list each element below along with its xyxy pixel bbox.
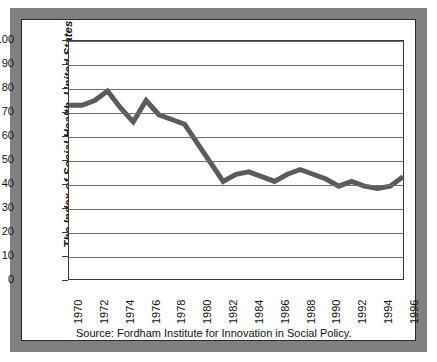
x-tick-label-1974: 1974	[124, 300, 136, 324]
y-tick-label-40: 40	[0, 177, 14, 189]
gridline-40	[69, 185, 403, 186]
gridline-60	[69, 137, 403, 138]
data-line-chart	[69, 41, 403, 279]
y-tick-label-90: 90	[0, 57, 14, 69]
y-tick-label-80: 80	[0, 81, 14, 93]
y-tick-label-10: 10	[0, 249, 14, 261]
y-tick-label-70: 70	[0, 105, 14, 117]
y-tick-label-100: 100	[0, 33, 14, 45]
x-tick-label-1978: 1978	[175, 300, 187, 324]
y-tick-label-0: 0	[0, 273, 14, 285]
source-note: Source: Fordham Institute for Innovation…	[76, 327, 352, 339]
plot-area	[68, 40, 404, 280]
gridline-70	[69, 113, 403, 114]
x-tick-label-1972: 1972	[98, 300, 110, 324]
x-tick-label-1970: 1970	[72, 300, 84, 324]
x-tick-label-1986: 1986	[279, 300, 291, 324]
y-tick-label-30: 30	[0, 201, 14, 213]
y-tick-label-60: 60	[0, 129, 14, 141]
x-tick-label-1984: 1984	[253, 300, 265, 324]
x-tick-label-1976: 1976	[150, 300, 162, 324]
y-tick-label-20: 20	[0, 225, 14, 237]
figure-frame: The Index of Social Health, United State…	[10, 8, 427, 352]
x-tick-label-1982: 1982	[227, 300, 239, 324]
x-tick-label-1988: 1988	[305, 300, 317, 324]
gridline-30	[69, 209, 403, 210]
index-of-social-health-line	[69, 91, 403, 189]
gridline-50	[69, 161, 403, 162]
x-tick-label-1992: 1992	[356, 300, 368, 324]
x-axis-labels: 1970197219741976197819801982198419861988…	[68, 282, 404, 326]
x-tick-label-1980: 1980	[201, 300, 213, 324]
gridline-80	[69, 89, 403, 90]
x-tick-label-1990: 1990	[330, 300, 342, 324]
gridline-90	[69, 65, 403, 66]
x-tick-label-1996: 1996	[408, 300, 420, 324]
y-tick-mark-0	[62, 280, 68, 281]
x-tick-label-1994: 1994	[382, 300, 394, 324]
gridline-100	[69, 41, 403, 42]
gridline-10	[69, 257, 403, 258]
gridline-20	[69, 233, 403, 234]
y-tick-label-50: 50	[0, 153, 14, 165]
figure-card: The Index of Social Health, United State…	[21, 19, 416, 341]
